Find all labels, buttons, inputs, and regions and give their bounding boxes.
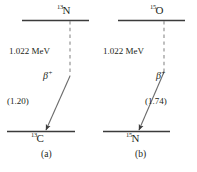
panel-b-drawing — [99, 0, 197, 172]
parent-nuclide-label-a: 13N — [57, 4, 71, 16]
energy-label-a: 1.022 MeV — [9, 47, 50, 56]
panel-caption-a: (a) — [41, 150, 52, 160]
panel-b: 15O 1.022 MeV β+ (1.74) 15N (b) — [99, 0, 197, 172]
beta-particle-label-b: β+ — [156, 70, 166, 81]
beta-particle-label-a: β+ — [43, 70, 53, 81]
endpoint-energy-label-a: (1.20) — [7, 97, 29, 106]
energy-label-b: 1.022 MeV — [103, 47, 144, 56]
beta-charge-a: + — [48, 69, 53, 77]
panel-a-drawing — [0, 0, 98, 172]
beta-charge-b: + — [161, 69, 166, 77]
beta-transition-arrow-a — [46, 76, 70, 130]
parent-symbol-a: N — [63, 4, 71, 16]
daughter-symbol-b: N — [132, 132, 140, 144]
daughter-nuclide-label-a: 13C — [31, 132, 44, 144]
panel-caption-b: (b) — [135, 150, 146, 160]
parent-symbol-b: O — [156, 4, 164, 16]
panel-a: 13N 1.022 MeV β+ (1.20) 13C (a) — [0, 0, 98, 172]
beta-decay-figure: 13N 1.022 MeV β+ (1.20) 13C (a) 15O 1.02… — [0, 0, 197, 172]
daughter-nuclide-label-b: 15N — [126, 132, 140, 144]
endpoint-energy-label-b: (1.74) — [145, 97, 167, 106]
parent-nuclide-label-b: 15O — [150, 4, 164, 16]
daughter-symbol-a: C — [37, 132, 44, 144]
